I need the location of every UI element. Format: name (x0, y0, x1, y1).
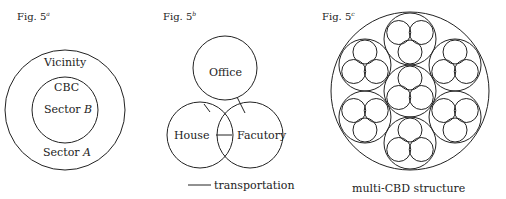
fig-c-title: Fig. 5c (322, 10, 355, 22)
label-vicinity: Vicinity (44, 56, 86, 69)
label-factory: Facutory (237, 129, 286, 142)
label-office: Office (209, 66, 242, 79)
label-house: House (174, 129, 209, 142)
fig-a-title: Fig. 5a (17, 10, 50, 22)
fig-b-title: Fig. 5b (163, 10, 196, 22)
diagram-canvas (0, 0, 506, 199)
label-sector-b: Sector B (44, 103, 92, 116)
label-cbc: CBC (54, 81, 79, 94)
fig-c-circles (331, 12, 489, 170)
legend-transportation: transportation (214, 179, 295, 192)
label-sector-a: Sector A (43, 146, 91, 159)
fig-b-circles (167, 36, 283, 185)
caption-multi-cbd: multi-CBD structure (352, 182, 465, 195)
